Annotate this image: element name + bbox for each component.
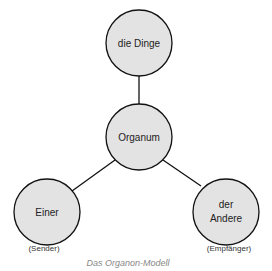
sub-label-sender: (Sender) [28, 244, 59, 253]
node-label-andere-line2: Andere [210, 213, 243, 224]
node-dinge: die Dinge [106, 10, 172, 76]
edge-organum-einer [72, 160, 115, 191]
edge-organum-andere [163, 160, 201, 186]
sub-label-empfaenger: (Empfänger) [207, 244, 252, 253]
node-label-dinge: die Dinge [118, 38, 161, 49]
node-organum: Organum [106, 104, 172, 170]
node-einer: Einer [14, 179, 80, 245]
node-andere: der Andere [193, 179, 259, 245]
organon-diagram: die Dinge Organum Einer (Sender) der And… [0, 0, 272, 271]
node-label-andere-line1: der [219, 199, 234, 210]
node-label-einer: Einer [35, 207, 59, 218]
node-label-organum: Organum [118, 132, 160, 143]
diagram-caption: Das Organon-Modell [86, 258, 170, 268]
